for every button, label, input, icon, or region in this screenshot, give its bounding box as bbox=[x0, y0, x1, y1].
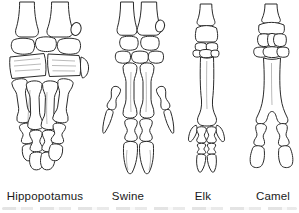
label-elk: Elk bbox=[176, 189, 230, 203]
swine-foot-illustration bbox=[99, 2, 177, 174]
label-hippopotamus: Hippopotamus bbox=[2, 189, 88, 203]
bone-illustrations bbox=[0, 0, 299, 185]
label-camel: Camel bbox=[246, 189, 299, 203]
page-edge-artifact bbox=[2, 207, 297, 210]
label-swine: Swine bbox=[95, 189, 161, 203]
camel-foot-illustration bbox=[249, 4, 294, 168]
figure: Hippopotamus Swine Elk Camel bbox=[0, 0, 299, 213]
hippopotamus-foot-illustration bbox=[10, 2, 89, 170]
elk-foot-illustration bbox=[187, 4, 227, 173]
